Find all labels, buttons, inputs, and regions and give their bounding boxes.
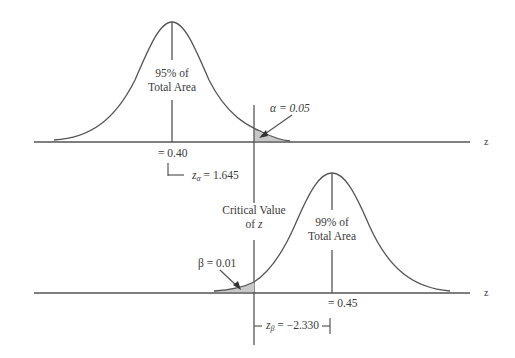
bottom-area-label: 99% of Total Area — [300, 215, 364, 243]
diagram-canvas — [0, 0, 515, 358]
critical-value-label: Critical Value of z — [214, 203, 294, 231]
beta-label: β = 0.01 — [198, 256, 236, 270]
top-distribution — [34, 22, 470, 176]
z-alpha-value: = 1.645 — [201, 169, 239, 181]
top-area-label-line1: 95% of — [140, 66, 204, 80]
critical-value-line1: Critical Value — [214, 203, 294, 217]
z-beta-value: = −2.330 — [274, 319, 319, 331]
z-alpha-label: zα = 1.645 — [192, 168, 239, 186]
top-area-label: 95% of Total Area — [140, 66, 204, 94]
top-area-label-line2: Total Area — [140, 80, 204, 94]
bottom-mean-label: = 0.45 — [328, 296, 358, 310]
bottom-axis-z-label: z — [484, 286, 488, 300]
bottom-area-label-line1: 99% of — [300, 215, 364, 229]
top-axis-z-label: z — [484, 135, 488, 149]
alpha-label: α = 0.05 — [270, 101, 310, 115]
critical-z-var: z — [258, 218, 262, 230]
z-beta-label: zβ = −2.330 — [266, 318, 319, 336]
critical-value-line2: of z — [214, 217, 294, 231]
bottom-distribution — [34, 173, 470, 334]
alpha-shaded-region — [254, 128, 290, 141]
bottom-area-label-line2: Total Area — [300, 229, 364, 243]
top-mean-label: = 0.40 — [158, 146, 188, 160]
